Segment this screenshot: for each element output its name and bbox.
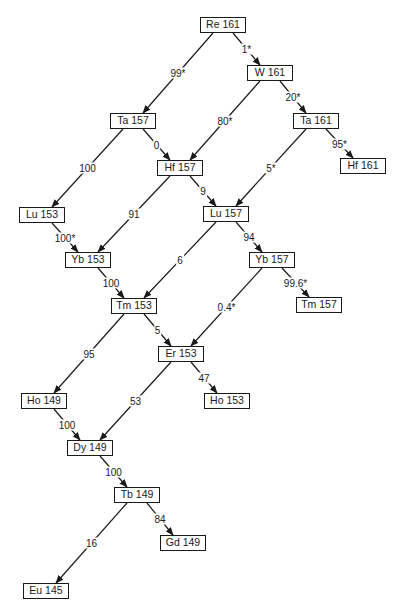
branching-ratio-label: 100 [78, 163, 97, 174]
branching-ratio-label: 5 [154, 325, 162, 336]
branching-ratio-label: 99* [169, 68, 186, 79]
nuclide-node-yb157: Yb 157 [249, 252, 295, 268]
nuclide-node-gd149: Gd 149 [160, 535, 206, 551]
nuclide-node-hf157: Hf 157 [157, 160, 203, 176]
branching-ratio-label: 0 [153, 139, 161, 150]
nuclide-node-ho153: Ho 153 [204, 393, 250, 409]
branching-ratio-label: 53 [129, 396, 142, 407]
branching-ratio-label: 100 [104, 466, 123, 477]
decay-chain-diagram: 99*1*80*20*10005*95*919100*6941000.4*99.… [0, 0, 407, 615]
branching-ratio-label: 5* [265, 162, 276, 173]
branching-ratio-label: 99.6* [283, 277, 308, 288]
branching-ratio-label: 94 [242, 232, 255, 243]
branching-ratio-label: 84 [153, 514, 166, 525]
branching-ratio-label: 1* [241, 44, 252, 55]
nuclide-node-er153: Er 153 [158, 346, 204, 362]
branching-ratio-label: 95 [82, 348, 95, 359]
branching-ratio-label: 6 [176, 255, 184, 266]
nuclide-node-ta161: Ta 161 [293, 113, 339, 129]
nuclide-node-w161: W 161 [247, 65, 293, 81]
nuclide-node-tm153: Tm 153 [111, 298, 157, 314]
branching-ratio-label: 95* [331, 138, 348, 149]
nuclide-node-tm157: Tm 157 [296, 297, 342, 313]
nuclide-node-tb149: Tb 149 [114, 487, 160, 503]
edges-layer [0, 0, 407, 615]
nuclide-node-eu145: Eu 145 [23, 583, 69, 599]
nuclide-node-ta157: Ta 157 [110, 113, 156, 129]
nuclide-node-lu157: Lu 157 [203, 206, 249, 222]
branching-ratio-label: 100 [102, 278, 121, 289]
nuclide-node-dy149: Dy 149 [67, 440, 113, 456]
branching-ratio-label: 100 [58, 419, 77, 430]
branching-ratio-label: 80* [216, 115, 233, 126]
branching-ratio-label: 9 [199, 186, 207, 197]
branching-ratio-label: 100* [54, 232, 77, 243]
branching-ratio-label: 16 [85, 538, 98, 549]
branching-ratio-label: 47 [197, 372, 210, 383]
nuclide-node-re161: Re 161 [200, 17, 246, 33]
nuclide-node-ho149: Ho 149 [21, 393, 67, 409]
nuclide-node-yb153: Yb 153 [65, 252, 111, 268]
branching-ratio-label: 20* [284, 92, 301, 103]
nuclide-node-lu153: Lu 153 [19, 207, 65, 223]
nuclide-node-hf161: Hf 161 [340, 158, 386, 174]
branching-ratio-label: 91 [127, 209, 140, 220]
branching-ratio-label: 0.4* [217, 302, 237, 313]
